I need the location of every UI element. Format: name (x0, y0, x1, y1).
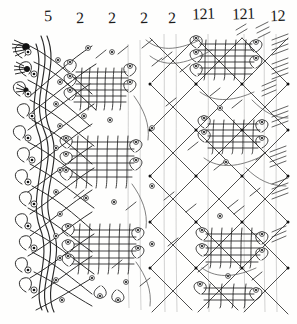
diagram-page: 5 2 2 2 2 121 121 12 Bobbin lace working… (0, 0, 297, 324)
lace-diagram-artwork (0, 0, 297, 324)
